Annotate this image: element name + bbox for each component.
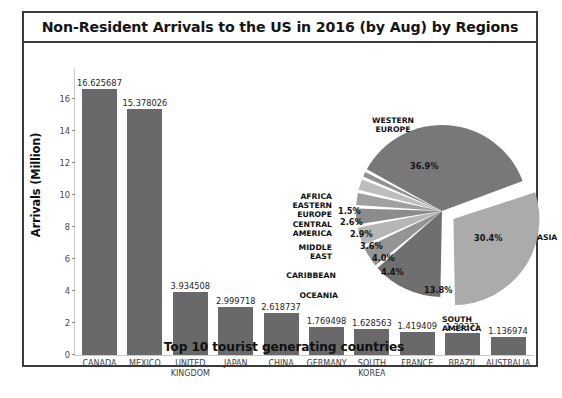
bar-category-label: MEXICO [119, 359, 170, 369]
y-tick-mark [72, 290, 75, 291]
pie-category-label: CENTRAL AMERICA [270, 220, 332, 238]
bar-value-label: 15.378026 [115, 98, 174, 108]
pie-percentage-label: 4.0% [372, 253, 395, 263]
y-tick-mark [72, 162, 75, 163]
pie-category-label: AFRICA [270, 192, 332, 201]
bar-value-label: 16.625687 [70, 78, 129, 88]
pie-category-label: CARIBBEAN [254, 271, 336, 280]
bar-category-label: JAPAN [210, 359, 261, 369]
pie-percentage-label: 36.9% [410, 161, 438, 171]
y-tick-label: 4 [36, 286, 70, 296]
bar [127, 109, 162, 355]
chart-title-bar: Non-Resident Arrivals to the US in 2016 … [24, 13, 536, 43]
pie-percentage-label: 4.4% [381, 267, 404, 277]
y-tick-label: 12 [36, 158, 70, 168]
bar-value-label: 3.934508 [161, 281, 220, 291]
pie-chart: 36.9%30.4%13.8%4.4%4.0%3.6%2.9%2.6%1.5%W… [292, 43, 540, 367]
y-tick-mark [72, 130, 75, 131]
y-tick-label: 8 [36, 222, 70, 232]
bar-category-label: CANADA [74, 359, 125, 369]
y-tick-mark [72, 354, 75, 355]
pie-percentage-label: 2.9% [350, 229, 373, 239]
y-tick-mark [72, 322, 75, 323]
pie-category-label: ASIA [537, 233, 562, 242]
pie-category-label: SOUTH AMERICA [442, 315, 502, 333]
pie-percentage-label: 30.4% [474, 233, 502, 243]
y-tick-mark [72, 258, 75, 259]
pie-percentage-label: 1.5% [338, 206, 361, 216]
y-tick-label: 6 [36, 254, 70, 264]
pie-percentage-label: 13.8% [424, 285, 452, 295]
chart-figure: Non-Resident Arrivals to the US in 2016 … [22, 11, 538, 367]
y-tick-label: 14 [36, 126, 70, 136]
y-tick-label: 16 [36, 94, 70, 104]
pie-category-label: MIDDLE EAST [270, 243, 332, 261]
pie-category-label: OCEANIA [276, 291, 338, 300]
y-axis-line [74, 69, 75, 355]
pie-percentage-label: 3.6% [360, 241, 383, 251]
y-tick-mark [72, 98, 75, 99]
y-tick-mark [72, 194, 75, 195]
pie-category-label: WESTERN EUROPE [358, 116, 428, 134]
bar-category-label: UNITED KINGDOM [165, 359, 216, 378]
pie-slice [453, 192, 539, 305]
y-tick-label: 2 [36, 318, 70, 328]
page-title: Non-Resident Arrivals to the US in 2016 … [42, 19, 519, 35]
plot-area: Arrivals (Million) 0246810121416 16.6256… [24, 43, 536, 367]
y-tick-label: 10 [36, 190, 70, 200]
pie-slice [367, 125, 523, 211]
y-tick-label: 0 [36, 350, 70, 360]
pie-category-label: EASTERN EUROPE [270, 201, 332, 219]
pie-percentage-label: 2.6% [340, 217, 363, 227]
y-tick-mark [72, 226, 75, 227]
bar [82, 89, 117, 355]
